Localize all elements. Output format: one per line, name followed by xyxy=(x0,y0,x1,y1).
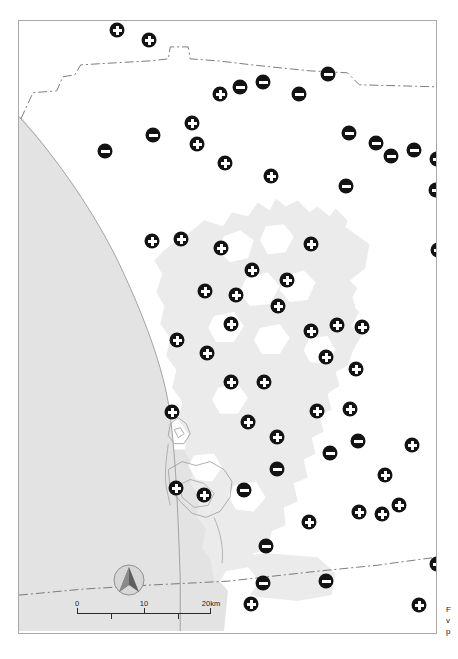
site-marker-plus[interactable] xyxy=(170,333,185,348)
site-marker-plus[interactable] xyxy=(270,430,285,445)
site-marker-plus[interactable] xyxy=(145,234,160,249)
site-marker-plus[interactable] xyxy=(218,156,233,171)
site-marker-plus[interactable] xyxy=(405,438,420,453)
site-marker-minus[interactable] xyxy=(429,183,438,198)
site-marker-plus[interactable] xyxy=(412,598,427,613)
marker-bar-vertical xyxy=(230,378,233,387)
marker-bar-vertical xyxy=(175,484,178,493)
site-marker-plus[interactable] xyxy=(349,362,364,377)
site-marker-plus[interactable] xyxy=(200,346,215,361)
site-marker-plus[interactable] xyxy=(271,299,286,314)
marker-bar-vertical xyxy=(308,518,311,527)
north-arrow-icon xyxy=(112,563,146,597)
site-marker-plus[interactable] xyxy=(352,505,367,520)
marker-bar-horizontal xyxy=(273,468,282,471)
site-marker-minus[interactable] xyxy=(98,144,113,159)
site-marker-plus[interactable] xyxy=(241,415,256,430)
site-marker-plus[interactable] xyxy=(304,324,319,339)
marker-bar-vertical xyxy=(116,26,119,35)
site-marker-plus[interactable] xyxy=(245,263,260,278)
site-marker-minus[interactable] xyxy=(351,434,366,449)
site-marker-plus[interactable] xyxy=(174,232,189,247)
site-marker-plus[interactable] xyxy=(165,405,180,420)
marker-bar-vertical xyxy=(277,302,280,311)
marker-bar-vertical xyxy=(203,491,206,500)
site-marker-plus[interactable] xyxy=(302,515,317,530)
marker-bar-horizontal xyxy=(259,582,268,585)
site-marker-minus[interactable] xyxy=(430,557,438,572)
marker-bar-vertical xyxy=(286,276,289,285)
scale-tick-minor-15 xyxy=(178,614,179,619)
marker-bar-horizontal xyxy=(101,150,110,153)
site-marker-plus[interactable] xyxy=(355,320,370,335)
site-marker-minus[interactable] xyxy=(256,75,271,90)
site-marker-minus[interactable] xyxy=(431,243,438,258)
scale-tick-minor-5 xyxy=(111,614,112,619)
site-marker-minus[interactable] xyxy=(321,67,336,82)
edge-caption-line-3: p xyxy=(446,626,458,637)
marker-bar-horizontal xyxy=(322,580,331,583)
map-frame: 0 10 20km xyxy=(18,20,437,634)
site-marker-minus[interactable] xyxy=(146,128,161,143)
site-marker-plus[interactable] xyxy=(214,241,229,256)
site-marker-plus[interactable] xyxy=(197,488,212,503)
site-marker-plus[interactable] xyxy=(190,137,205,152)
site-marker-plus[interactable] xyxy=(229,288,244,303)
site-marker-plus[interactable] xyxy=(304,237,319,252)
site-marker-minus[interactable] xyxy=(323,446,338,461)
site-marker-plus[interactable] xyxy=(280,273,295,288)
site-marker-minus[interactable] xyxy=(369,136,384,151)
site-marker-minus[interactable] xyxy=(342,126,357,141)
site-marker-minus[interactable] xyxy=(256,576,271,591)
marker-bar-horizontal xyxy=(433,563,438,566)
marker-bar-vertical xyxy=(235,291,238,300)
site-marker-minus[interactable] xyxy=(292,87,307,102)
site-marker-plus[interactable] xyxy=(264,169,279,184)
site-marker-plus[interactable] xyxy=(169,481,184,496)
site-marker-plus[interactable] xyxy=(110,23,125,38)
marker-bar-vertical xyxy=(384,471,387,480)
edge-caption: F v p xyxy=(446,604,458,648)
site-marker-minus[interactable] xyxy=(339,179,354,194)
site-marker-plus[interactable] xyxy=(310,404,325,419)
site-marker-minus[interactable] xyxy=(270,462,285,477)
site-marker-plus[interactable] xyxy=(244,597,259,612)
site-marker-minus[interactable] xyxy=(233,80,248,95)
scale-bar: 0 10 20km xyxy=(77,599,211,627)
site-marker-plus[interactable] xyxy=(330,318,345,333)
site-marker-plus[interactable] xyxy=(392,498,407,513)
marker-bar-vertical xyxy=(247,418,250,427)
marker-bar-vertical xyxy=(310,327,313,336)
marker-bar-vertical xyxy=(336,321,339,330)
site-marker-plus[interactable] xyxy=(378,468,393,483)
site-marker-plus[interactable] xyxy=(142,33,157,48)
marker-bar-vertical xyxy=(171,408,174,417)
marker-bar-vertical xyxy=(349,405,352,414)
marker-bar-horizontal xyxy=(342,185,351,188)
marker-bar-vertical xyxy=(180,235,183,244)
site-marker-plus[interactable] xyxy=(257,375,272,390)
site-marker-minus[interactable] xyxy=(407,143,422,158)
site-marker-minus[interactable] xyxy=(259,539,274,554)
marker-bar-horizontal xyxy=(326,452,335,455)
marker-bar-vertical xyxy=(325,353,328,362)
site-marker-plus[interactable] xyxy=(213,87,228,102)
site-marker-minus[interactable] xyxy=(430,152,438,167)
marker-bar-vertical xyxy=(398,501,401,510)
site-marker-plus[interactable] xyxy=(319,350,334,365)
site-marker-minus[interactable] xyxy=(384,149,399,164)
marker-bar-vertical xyxy=(230,320,233,329)
marker-bar-vertical xyxy=(191,119,194,128)
site-marker-plus[interactable] xyxy=(224,375,239,390)
site-marker-plus[interactable] xyxy=(185,116,200,131)
map-page: 0 10 20km F v p xyxy=(0,0,458,659)
marker-bar-horizontal xyxy=(434,249,438,252)
site-marker-minus[interactable] xyxy=(319,574,334,589)
site-marker-plus[interactable] xyxy=(198,284,213,299)
site-marker-plus[interactable] xyxy=(343,402,358,417)
site-marker-plus[interactable] xyxy=(375,507,390,522)
marker-bar-vertical xyxy=(196,140,199,149)
marker-bar-vertical xyxy=(224,159,227,168)
site-marker-minus[interactable] xyxy=(237,483,252,498)
site-marker-plus[interactable] xyxy=(224,317,239,332)
